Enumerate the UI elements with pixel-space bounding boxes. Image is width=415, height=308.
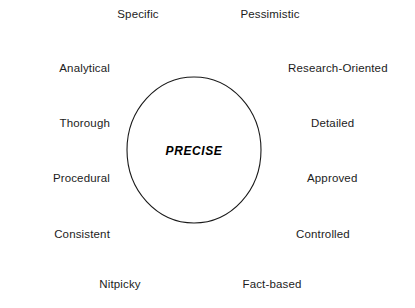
diagram-canvas: Specific Pessimistic Analytical Thorough… — [0, 0, 415, 308]
trait-label-consistent: Consistent — [54, 228, 110, 241]
trait-label-analytical: Analytical — [59, 62, 110, 75]
trait-label-approved: Approved — [307, 172, 357, 185]
core-ellipse-shape — [126, 76, 262, 224]
trait-label-detailed: Detailed — [311, 117, 354, 130]
trait-label-research-oriented: Research-Oriented — [288, 62, 388, 75]
core-ellipse: PRECISE — [126, 76, 262, 224]
trait-label-nitpicky: Nitpicky — [99, 278, 140, 291]
trait-label-controlled: Controlled — [296, 228, 350, 241]
trait-label-specific: Specific — [117, 8, 158, 21]
trait-label-procedural: Procedural — [53, 172, 110, 185]
trait-label-thorough: Thorough — [60, 117, 110, 130]
trait-label-pessimistic: Pessimistic — [240, 8, 299, 21]
trait-label-fact-based: Fact-based — [242, 278, 301, 291]
